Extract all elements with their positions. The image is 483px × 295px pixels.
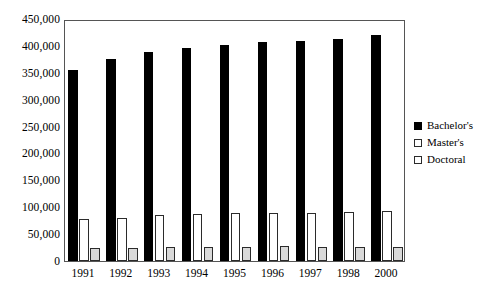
bar-doctoral bbox=[280, 246, 290, 261]
bar-masters bbox=[193, 214, 203, 261]
bar-masters bbox=[307, 213, 317, 261]
y-axis-tick-label: 250,000 bbox=[2, 122, 60, 134]
bar-bachelors bbox=[296, 41, 306, 261]
y-axis-tick-label: 450,000 bbox=[2, 14, 60, 26]
y-axis-tick-label: 400,000 bbox=[2, 41, 60, 53]
bar-bachelors bbox=[68, 70, 78, 261]
legend-label: Doctoral bbox=[427, 154, 465, 165]
bar-bachelors bbox=[182, 48, 192, 261]
bar-masters bbox=[382, 211, 392, 261]
x-axis-tick-label: 1995 bbox=[216, 266, 254, 280]
x-axis-tick-label: 1992 bbox=[102, 266, 140, 280]
y-axis-tick-label: 100,000 bbox=[2, 202, 60, 214]
bar-masters bbox=[269, 213, 279, 261]
bars-layer bbox=[65, 21, 404, 261]
x-axis: 199119921993199419951996199719982000 bbox=[64, 266, 405, 288]
bar-bachelors bbox=[333, 39, 343, 261]
bar-bachelors bbox=[144, 52, 154, 261]
legend-item[interactable]: Master's bbox=[414, 134, 483, 151]
bar-doctoral bbox=[242, 247, 252, 261]
bar-chart: 450,000400,000350,000300,000250,000200,0… bbox=[0, 0, 483, 295]
bar-doctoral bbox=[128, 248, 138, 261]
bar-doctoral bbox=[204, 247, 214, 261]
bar-masters bbox=[155, 215, 165, 261]
x-axis-tick-label: 1993 bbox=[140, 266, 178, 280]
bar-group bbox=[220, 21, 252, 261]
bar-group bbox=[182, 21, 214, 261]
bar-bachelors bbox=[371, 35, 381, 261]
bar-bachelors bbox=[220, 45, 230, 261]
legend-swatch-icon bbox=[414, 156, 422, 164]
x-axis-tick-label: 1998 bbox=[329, 266, 367, 280]
x-axis-tick-label: 1994 bbox=[178, 266, 216, 280]
bar-group bbox=[68, 21, 100, 261]
bar-masters bbox=[117, 218, 127, 261]
y-axis-tick-label: 350,000 bbox=[2, 68, 60, 80]
bar-group bbox=[144, 21, 176, 261]
y-axis-tick-label: 0 bbox=[2, 256, 60, 268]
legend-label: Bachelor's bbox=[427, 120, 473, 131]
bar-doctoral bbox=[166, 247, 176, 261]
bar-group bbox=[258, 21, 290, 261]
bar-doctoral bbox=[318, 247, 328, 261]
bar-group bbox=[296, 21, 328, 261]
chart-legend: Bachelor'sMaster'sDoctoral bbox=[414, 117, 483, 168]
y-axis: 450,000400,000350,000300,000250,000200,0… bbox=[0, 0, 60, 295]
legend-swatch-icon bbox=[414, 122, 422, 130]
x-axis-tick-label: 1996 bbox=[253, 266, 291, 280]
y-axis-tick-label: 150,000 bbox=[2, 175, 60, 187]
bar-masters bbox=[79, 219, 89, 261]
bar-group bbox=[333, 21, 365, 261]
bar-group bbox=[371, 21, 403, 261]
x-axis-tick-label: 1991 bbox=[64, 266, 102, 280]
legend-item[interactable]: Bachelor's bbox=[414, 117, 483, 134]
legend-label: Master's bbox=[427, 137, 464, 148]
y-axis-tick-label: 50,000 bbox=[2, 229, 60, 241]
legend-item[interactable]: Doctoral bbox=[414, 151, 483, 168]
bar-masters bbox=[344, 212, 354, 261]
y-axis-tick-label: 200,000 bbox=[2, 148, 60, 160]
bar-doctoral bbox=[355, 247, 365, 261]
bar-bachelors bbox=[258, 42, 268, 261]
legend-swatch-icon bbox=[414, 139, 422, 147]
bar-group bbox=[106, 21, 138, 261]
bar-doctoral bbox=[90, 248, 100, 261]
x-axis-tick-label: 1997 bbox=[291, 266, 329, 280]
y-axis-tick-label: 300,000 bbox=[2, 95, 60, 107]
plot-area bbox=[64, 20, 405, 262]
bar-doctoral bbox=[393, 247, 403, 261]
x-axis-tick-label: 2000 bbox=[367, 266, 405, 280]
bar-masters bbox=[231, 213, 241, 261]
bar-bachelors bbox=[106, 59, 116, 261]
